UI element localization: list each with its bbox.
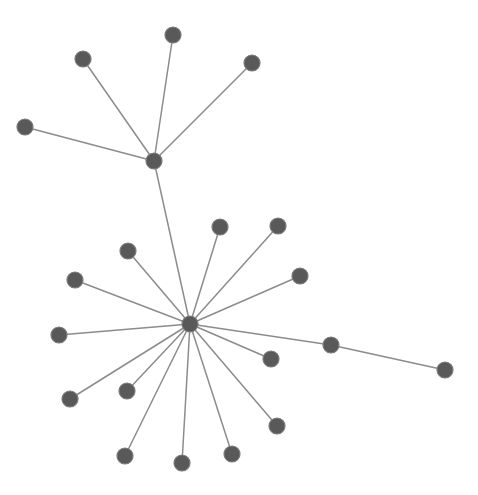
graph-edge-hub-main-m2 <box>190 226 278 324</box>
graph-edge-hub-top-t3 <box>154 63 252 161</box>
graph-edge-hub-main-m14 <box>182 324 190 463</box>
graph-node-r1 <box>437 362 453 378</box>
network-graph <box>0 0 478 495</box>
graph-node-m11 <box>269 418 285 434</box>
graph-edge-hub-main-m12 <box>190 324 232 454</box>
graph-node-m3 <box>120 243 136 259</box>
graph-node-m5 <box>67 272 83 288</box>
graph-node-t4 <box>17 119 33 135</box>
graph-node-m8 <box>323 337 339 353</box>
graph-node-hub-top <box>146 153 162 169</box>
graph-node-t3 <box>244 55 260 71</box>
graph-node-t2 <box>75 51 91 67</box>
graph-edge-m8-r1 <box>331 345 445 370</box>
graph-node-m1 <box>212 219 228 235</box>
graph-edge-hub-main-m5 <box>75 280 190 324</box>
graph-edge-hub-top-hub-main <box>154 161 190 324</box>
graph-edge-hub-main-m4 <box>190 276 300 324</box>
graph-node-m7 <box>263 351 279 367</box>
graph-node-m9 <box>119 383 135 399</box>
graph-edge-hub-main-m8 <box>190 324 331 345</box>
graph-edge-hub-main-m1 <box>190 227 220 324</box>
graph-node-m6 <box>51 327 67 343</box>
nodes-layer <box>17 27 453 471</box>
graph-node-m4 <box>292 268 308 284</box>
graph-edge-hub-main-m6 <box>59 324 190 335</box>
graph-node-hub-main <box>182 316 198 332</box>
graph-edge-hub-top-t1 <box>154 35 173 161</box>
graph-edge-hub-main-m7 <box>190 324 271 359</box>
graph-node-t1 <box>165 27 181 43</box>
edges-layer <box>25 35 445 463</box>
graph-node-m14 <box>174 455 190 471</box>
graph-node-m2 <box>270 218 286 234</box>
graph-edge-hub-main-m11 <box>190 324 277 426</box>
graph-node-m12 <box>224 446 240 462</box>
graph-node-m10 <box>62 391 78 407</box>
graph-edge-hub-main-m3 <box>128 251 190 324</box>
graph-node-m13 <box>117 448 133 464</box>
